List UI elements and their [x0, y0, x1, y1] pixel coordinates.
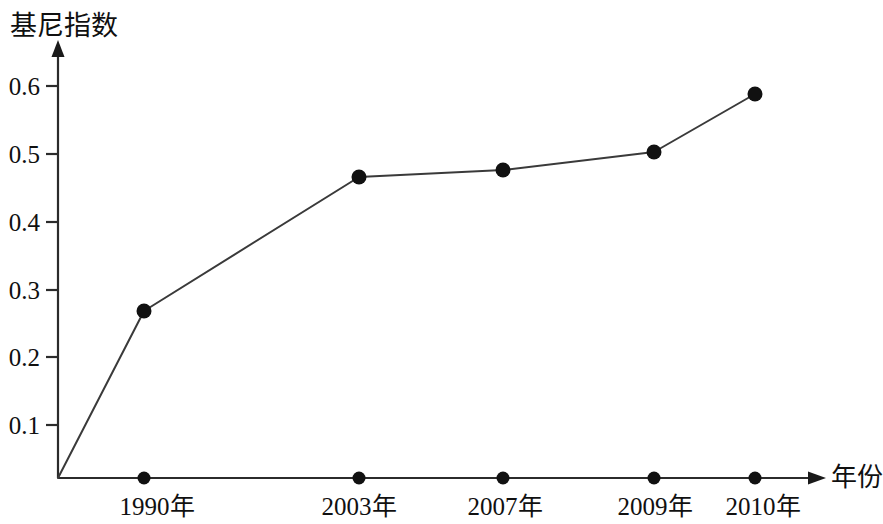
y-tick-label-0.5: 0.5: [0, 142, 40, 167]
y-axis-arrow-icon: [52, 40, 65, 57]
x-axis-marker-2007: [497, 472, 510, 485]
x-axis-marker-1990: [138, 472, 151, 485]
data-point-2010: [748, 87, 763, 102]
y-tick-label-0.4: 0.4: [0, 210, 40, 235]
y-axis-title: 基尼指数: [10, 12, 118, 39]
data-point-2009: [647, 145, 662, 160]
chart-plot-area: [0, 0, 883, 524]
x-axis-arrow-icon: [808, 472, 826, 485]
data-point-2003: [352, 170, 367, 185]
x-axis-marker-2010: [749, 472, 762, 485]
x-tick-label-2010: 2010年: [698, 494, 828, 519]
y-tick-label-0.3: 0.3: [0, 278, 40, 303]
x-axis-title: 年份: [831, 464, 883, 490]
y-tick-label-0.2: 0.2: [0, 345, 40, 370]
y-tick-label-0.6: 0.6: [0, 74, 40, 99]
x-tick-label-2003: 2003年: [294, 494, 424, 519]
gini-index-line-chart: 基尼指数 0.6 0.5 0.4 0.3 0.2 0.1 1990年 2003年…: [0, 0, 883, 524]
x-axis-marker-2009: [648, 472, 661, 485]
x-tick-label-1990: 1990年: [92, 494, 222, 519]
y-tick-label-0.1: 0.1: [0, 413, 40, 438]
data-point-2007: [496, 163, 511, 178]
x-tick-label-2007: 2007年: [440, 494, 570, 519]
data-point-1990: [137, 304, 152, 319]
x-axis-marker-2003: [353, 472, 366, 485]
